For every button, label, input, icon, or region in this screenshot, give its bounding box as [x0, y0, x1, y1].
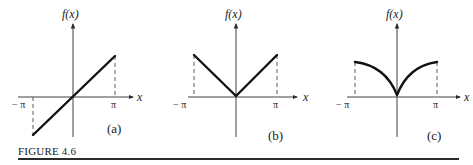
y-axis-label: f(x) — [386, 7, 403, 21]
tick-neg-pi: − π — [336, 99, 349, 110]
x-axis-label: x — [136, 90, 143, 104]
tick-pi: π — [273, 99, 278, 110]
tick-pi: π — [111, 99, 116, 110]
tick-neg-pi: − π — [173, 99, 186, 110]
y-axis-label: f(x) — [225, 7, 242, 21]
function-curve — [194, 55, 277, 96]
figure-canvas: f(x) x − π π (a) f(x) x − π π (b) f(x) x… — [0, 0, 473, 165]
function-curve — [33, 56, 115, 135]
x-axis-label: x — [302, 90, 309, 104]
tick-neg-pi: − π — [12, 99, 25, 110]
x-axis-label: x — [463, 90, 470, 104]
figure-caption: FIGURE 4.6 — [18, 145, 76, 157]
caption-rule — [18, 158, 459, 160]
y-axis-label: f(x) — [62, 7, 79, 21]
panel-label: (a) — [107, 121, 121, 136]
panel-a: f(x) x − π π (a) — [12, 7, 143, 137]
function-curve — [355, 62, 437, 95]
panel-label: (b) — [268, 128, 283, 143]
tick-pi: π — [433, 99, 438, 110]
panel-label: (c) — [427, 128, 441, 143]
panel-c: f(x) x − π π (c) — [336, 7, 470, 143]
panel-b: f(x) x − π π (b) — [173, 7, 309, 143]
